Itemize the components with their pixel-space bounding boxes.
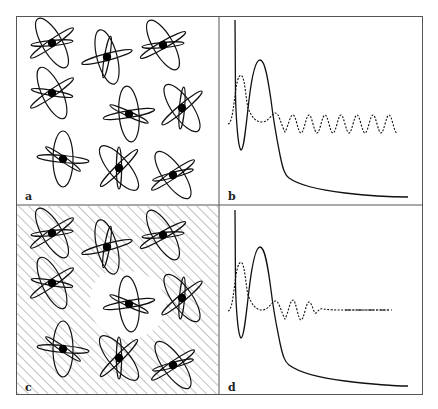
panel-a-molecules [29,14,207,204]
molecule [93,140,144,196]
nucleus-dot [125,110,133,118]
molecule [29,14,76,72]
panel-c-hatching [17,206,218,394]
molecule [29,63,76,122]
nucleus-dot [169,171,177,179]
nucleus-dot [103,53,111,61]
nucleus-dot [48,89,56,97]
nucleus-dot [159,41,167,49]
molecule [81,27,133,86]
panel-b-plot [228,20,408,197]
nucleus-dot [115,164,123,172]
nucleus-dot [125,300,133,308]
nucleus-dot [169,361,177,369]
nucleus-dot [48,39,56,47]
panel-label-c: c [25,381,32,394]
molecule [158,79,207,136]
nucleus-dot [48,279,56,287]
nucleus-dot [115,354,123,362]
panel-d-dotted-curve [228,262,390,320]
molecule [103,85,155,143]
panel-d-solid-curve [235,210,408,386]
nucleus-dot [178,104,186,112]
nucleus-dot [178,294,186,302]
panel-label-b: b [228,190,236,203]
molecule [139,16,188,74]
molecule [149,146,198,203]
panel-d-plot [228,210,408,386]
nucleus-dot [103,243,111,251]
nucleus-dot [159,231,167,239]
nucleus-dot [59,345,67,353]
nucleus-dot [59,155,67,163]
panel-label-a: a [25,190,32,203]
panel-b-solid-curve [235,20,408,197]
figure: a b c d [0,0,438,409]
molecule [37,131,89,187]
panel-label-d: d [228,381,236,394]
panel-b-dotted-curve [228,75,397,133]
nucleus-dot [48,229,56,237]
